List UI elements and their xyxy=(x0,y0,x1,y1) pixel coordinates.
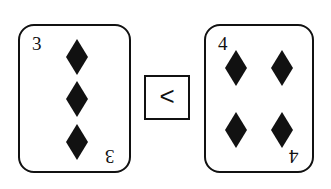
diamond-icon xyxy=(66,81,88,117)
left-card-rank-top: 3 xyxy=(32,34,42,53)
diamond-icon xyxy=(66,124,88,160)
diamond-icon xyxy=(271,112,293,148)
left-card: 3 3 xyxy=(18,24,131,173)
comparison-box: < xyxy=(144,75,190,120)
right-card-rank-bottom: 4 xyxy=(289,147,299,166)
diamond-icon xyxy=(225,112,247,148)
diamond-icon xyxy=(66,39,88,75)
less-than-symbol: < xyxy=(159,83,174,109)
right-card: 4 4 xyxy=(204,24,314,173)
left-card-rank-bottom: 3 xyxy=(105,147,115,166)
diamond-icon xyxy=(225,50,247,86)
diamond-icon xyxy=(271,50,293,86)
